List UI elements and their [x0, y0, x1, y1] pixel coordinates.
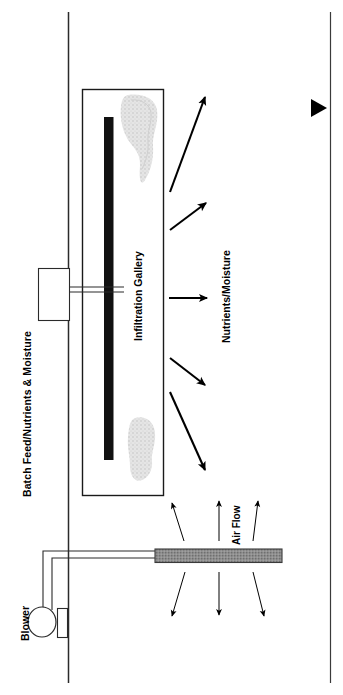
distribution-pipe [104, 117, 114, 460]
boundary-marker-arrowhead [311, 99, 327, 117]
air-flow-arrows-down [172, 572, 264, 616]
label-batch-feed: Batch Feed/Nutrients & Moisture [22, 331, 33, 497]
air-flow-arrows-up [172, 501, 258, 541]
nutrients-moisture-arrows [169, 97, 207, 470]
diagram-vector-layer [0, 0, 343, 695]
label-air-flow: Air Flow [232, 506, 242, 545]
diagram-canvas: Batch Feed/Nutrients & Moisture Blower I… [0, 0, 343, 695]
blower-fan [28, 607, 56, 637]
blower-piping [43, 551, 158, 612]
label-blower: Blower [20, 606, 31, 641]
label-infiltration-gallery: Infiltration Gallery [133, 251, 144, 341]
label-nutrients-moisture: Nutrients/Moisture [221, 250, 232, 343]
perforated-air-pipe [155, 549, 282, 563]
batch-feed-tank [39, 269, 70, 321]
blower-housing [58, 609, 68, 638]
